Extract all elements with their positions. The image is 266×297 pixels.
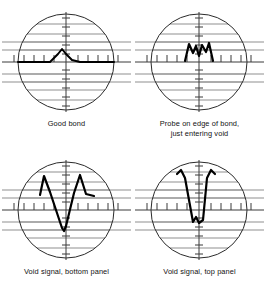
caption-line: just entering void (133, 129, 266, 139)
caption-line: Good bond (0, 119, 133, 129)
panel-void-signal-bottom: Void signal, bottom panel (0, 148, 133, 297)
caption-line: Void signal, top panel (133, 267, 266, 277)
scope-display-void-bottom (0, 148, 133, 266)
waveform-trace (177, 170, 215, 223)
scope-display-void-top (133, 148, 266, 266)
scope-display-good-bond (0, 0, 133, 118)
caption-line: Void signal, bottom panel (0, 267, 133, 277)
caption-line: Probe on edge of bond, (133, 119, 266, 129)
caption-good-bond: Good bond (0, 119, 133, 145)
caption-probe-edge-of-bond: Probe on edge of bond, just entering voi… (133, 119, 266, 145)
caption-void-signal-top: Void signal, top panel (133, 267, 266, 293)
caption-void-signal-bottom: Void signal, bottom panel (0, 267, 133, 293)
panel-probe-edge-of-bond: Probe on edge of bond, just entering voi… (133, 0, 266, 148)
panel-void-signal-top: Void signal, top panel (133, 148, 266, 297)
panel-good-bond: Good bond (0, 0, 133, 148)
scope-display-probe-edge (133, 0, 266, 118)
waveform-trace (40, 175, 94, 231)
bond-tester-display-figure: Good bond (0, 0, 266, 297)
